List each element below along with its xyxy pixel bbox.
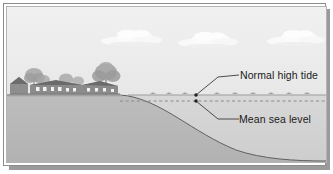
plateau-edge-shading (6, 95, 122, 97)
mean-sea-level-label: Mean sea level (239, 113, 311, 125)
normal-high-tide-label: Normal high tide (240, 69, 318, 81)
diagram-canvas (0, 0, 333, 174)
scene-contents (6, 6, 327, 163)
village-base-line (10, 93, 120, 95)
mean-sea-level-marker-dot (194, 99, 197, 102)
normal-high-tide-marker-dot (194, 93, 197, 96)
coastal-cross-section-figure: Normal high tide Mean sea level (0, 0, 333, 174)
frame-shadow-bottom (9, 166, 330, 170)
